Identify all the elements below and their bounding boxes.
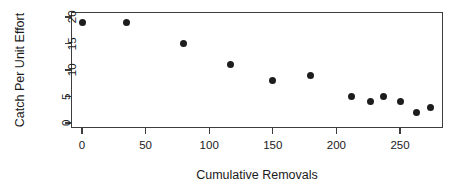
x-tick-label: 200 <box>327 140 346 152</box>
x-tick-label: 0 <box>79 140 85 152</box>
y-tick-label: 10 <box>67 63 79 76</box>
x-tick-mark <box>399 128 400 134</box>
data-point <box>79 19 86 26</box>
y-axis-title: Catch Per Unit Effort <box>14 13 27 127</box>
data-point <box>397 98 404 105</box>
y-tick-label: 0 <box>61 120 73 126</box>
x-tick-mark <box>209 128 210 134</box>
data-point <box>427 104 434 111</box>
y-tick-label: 15 <box>67 37 79 50</box>
x-tick-label: 150 <box>263 140 282 152</box>
x-tick-label: 100 <box>200 140 219 152</box>
y-tick-label: 5 <box>61 93 73 99</box>
scatter-plot-figure: 050100150200250 05101520 Cumulative Remo… <box>0 0 466 191</box>
x-tick-mark <box>81 128 82 134</box>
x-tick-label: 50 <box>139 140 152 152</box>
x-tick-label: 250 <box>390 140 409 152</box>
plot-frame <box>71 12 443 128</box>
x-tick-mark <box>145 128 146 134</box>
y-tick-label: 20 <box>67 10 79 23</box>
data-point <box>380 93 387 100</box>
data-point <box>413 109 420 116</box>
x-axis-title: Cumulative Removals <box>196 169 318 182</box>
x-tick-mark <box>336 128 337 134</box>
x-tick-mark <box>272 128 273 134</box>
data-point <box>123 19 130 26</box>
